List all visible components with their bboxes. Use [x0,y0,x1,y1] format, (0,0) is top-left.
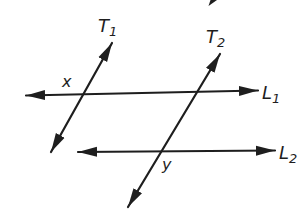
transversal-t1 [51,43,112,152]
label-line-l2-main: L [279,142,289,163]
transversal-t2 [128,54,220,207]
parallel-line-l2 [78,151,275,153]
label-line-l1-main: L [262,82,272,103]
label-transversal-t2: T2 [206,26,225,50]
parallel-lines-transversals-diagram: L1 L2 T1 T2 x y [0,0,303,210]
label-line-l2: L2 [279,142,297,166]
clipped-top-arrow-fragment [209,0,218,6]
label-line-l1-subscript: 1 [272,91,280,106]
angle-label-y: y [161,155,172,174]
angle-label-x: x [61,72,72,91]
label-transversal-t1-subscript: 1 [109,24,117,39]
geometry-figure: L1 L2 T1 T2 x y [0,0,303,210]
parallel-line-l1 [26,91,258,96]
label-line-l2-subscript: 2 [289,151,297,166]
label-transversal-t1: T1 [98,15,117,39]
label-line-l1: L1 [262,82,280,106]
label-transversal-t2-subscript: 2 [217,35,225,50]
